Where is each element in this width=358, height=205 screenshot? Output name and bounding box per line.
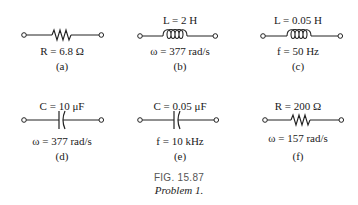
panel-e-capacitor: C = 0.05 μF f = 10 kHz (e) [120, 92, 240, 172]
panel-c-inductor: L = 0.05 H f = 50 Hz (c) [238, 0, 358, 80]
frequency-label: ω = 377 rad/s [2, 135, 122, 147]
figure-number: FIG. 15.87 [0, 172, 358, 183]
resistance-label: R = 6.8 Ω [2, 45, 122, 57]
capacitor-symbol [2, 106, 122, 136]
panel-b-inductor: L = 2 H ω = 377 rad/s (b) [120, 0, 240, 80]
panel-f-resistor: R = 200 Ω ω = 157 rad/s (f) [238, 92, 358, 172]
frequency-label: f = 10 kHz [120, 135, 240, 147]
frequency-label: f = 50 Hz [238, 45, 358, 57]
figure-caption: Problem 1. [0, 184, 358, 196]
capacitor-symbol [120, 106, 240, 136]
panel-tag: (e) [120, 150, 240, 162]
frequency-label: ω = 377 rad/s [120, 45, 240, 57]
panel-d-capacitor: C = 10 μF ω = 377 rad/s (d) [2, 92, 122, 172]
panel-tag: (c) [238, 60, 358, 72]
panel-tag: (f) [238, 150, 358, 162]
panel-tag: (b) [120, 60, 240, 72]
frequency-label: ω = 157 rad/s [238, 132, 358, 144]
panel-tag: (a) [2, 60, 122, 72]
panel-a-resistor: R = 6.8 Ω (a) [2, 0, 122, 80]
panel-tag: (d) [2, 150, 122, 162]
